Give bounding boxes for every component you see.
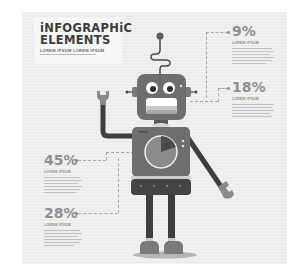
right-leg	[168, 195, 175, 243]
wrench-icon	[97, 91, 109, 101]
antenna-wire	[151, 39, 170, 74]
right-foot	[164, 241, 183, 254]
antenna-tip-icon	[157, 33, 164, 40]
robot-belt	[131, 179, 191, 195]
left-leg	[146, 195, 153, 243]
robot-illustration	[0, 0, 301, 280]
left-foot	[140, 241, 159, 254]
right-arm	[188, 138, 222, 188]
